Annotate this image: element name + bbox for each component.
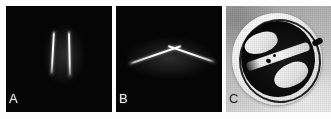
panel-label-a: A (9, 92, 18, 105)
panel-label-b: B (119, 92, 128, 105)
panel-a (6, 6, 112, 112)
streak-glow-a (42, 24, 86, 86)
left-streak-line (51, 31, 56, 75)
chevron-right-arm (168, 45, 216, 63)
figure-container: A B C (0, 0, 331, 119)
panel-b (116, 6, 222, 112)
panel-c (226, 6, 331, 112)
panel-label-c: C (229, 92, 239, 105)
right-streak-line (68, 31, 71, 77)
